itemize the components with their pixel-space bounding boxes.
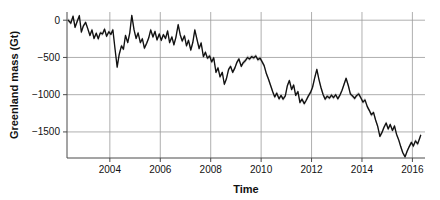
y-tick-label: 0 [54, 15, 60, 26]
line-chart: 0−500−1000−15002004200620082010201220142… [0, 0, 440, 200]
plot-background [67, 12, 425, 158]
x-tick-label: 2008 [200, 164, 223, 175]
y-tick-label: −1500 [32, 126, 61, 137]
y-tick-label: −1000 [32, 89, 61, 100]
x-axis-title: Time [233, 183, 258, 195]
y-axis-title: Greenland mass (Gt) [8, 31, 20, 140]
x-tick-label: 2006 [149, 164, 172, 175]
x-tick-label: 2010 [250, 164, 273, 175]
greenland-mass-figure: 0−500−1000−15002004200620082010201220142… [0, 0, 440, 200]
x-tick-label: 2016 [401, 164, 424, 175]
y-tick-label: −500 [37, 52, 60, 63]
x-tick-label: 2014 [351, 164, 374, 175]
x-tick-label: 2012 [300, 164, 323, 175]
x-tick-label: 2004 [99, 164, 122, 175]
